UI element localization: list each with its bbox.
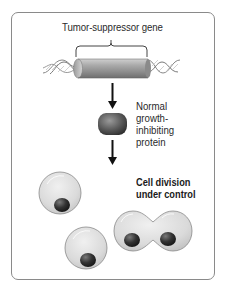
dna-strand-right-icon (148, 60, 180, 73)
gene-label: Tumor-suppressor gene (9, 22, 216, 33)
protein-label-line: Normal (136, 100, 174, 112)
cell-icon (39, 172, 81, 214)
protein-icon (98, 113, 127, 135)
cell-icon (65, 227, 107, 269)
protein-label-line: growth- (136, 112, 174, 124)
arrow-down-icon (108, 83, 117, 109)
dna-strand-left-icon (43, 60, 78, 74)
protein-label-line: protein (136, 136, 174, 148)
division-label-line: under control (136, 188, 196, 200)
dividing-cell-icon (114, 211, 192, 251)
arrow-down-icon (108, 140, 117, 165)
cell-division-label: Cell division under control (136, 176, 196, 200)
protein-label: Normal growth- inhibiting protein (136, 100, 174, 148)
gene-cylinder-icon (74, 59, 152, 78)
division-label-line: Cell division (136, 176, 196, 188)
protein-label-line: inhibiting (136, 124, 174, 136)
gene-bracket (76, 40, 147, 57)
diagram-artwork (0, 0, 225, 286)
